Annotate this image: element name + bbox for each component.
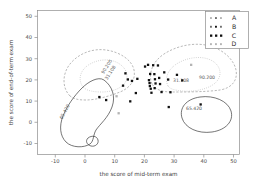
data-point — [131, 80, 133, 82]
data-point — [98, 96, 100, 98]
data-point — [154, 87, 156, 89]
legend-marker-b — [215, 26, 217, 28]
x-tickmarks — [55, 155, 233, 158]
contour-label: 65.420 — [186, 106, 202, 111]
x-axis-title: the score of mid-term exam — [99, 171, 177, 177]
y-tick-label: 30 — [25, 56, 32, 62]
data-point — [118, 112, 120, 114]
y-tick-label: 50 — [25, 13, 32, 19]
data-point — [105, 99, 107, 101]
legend-frame — [206, 12, 249, 49]
data-point — [167, 78, 169, 80]
data-point — [154, 78, 156, 80]
legend-label-c: C — [232, 32, 236, 39]
legend-label-b: B — [232, 23, 236, 30]
legend-marker-c — [215, 35, 217, 37]
y-tick-label: 10 — [25, 98, 32, 104]
y-tick-labels: -10 0 10 20 30 40 50 — [24, 13, 32, 146]
data-point — [176, 74, 178, 76]
data-point — [149, 85, 151, 87]
data-point — [168, 106, 170, 108]
chart-canvas: -10 0 10 20 30 40 50 -10 0 10 20 30 40 5… — [0, 0, 254, 185]
data-point — [159, 83, 161, 85]
x-tick-label: 0 — [83, 158, 86, 164]
contour-label: 90.200 — [199, 75, 215, 80]
data-point — [148, 82, 150, 84]
data-point — [135, 92, 137, 94]
data-point — [150, 92, 152, 94]
data-point — [157, 64, 159, 66]
data-point — [190, 64, 192, 66]
contour-labels: 90.200 31.108 65.420 31.108 90.200 65.42… — [59, 59, 215, 121]
contour-group-left — [61, 50, 135, 147]
data-point — [163, 71, 165, 73]
legend-marker-a — [210, 17, 212, 19]
legend-marker-d — [220, 43, 222, 45]
data-point — [136, 78, 138, 80]
scatter-plot-figure: -10 0 10 20 30 40 50 -10 0 10 20 30 40 5… — [0, 0, 254, 185]
x-tick-label: 10 — [111, 158, 118, 164]
data-point — [127, 78, 129, 80]
data-point — [115, 95, 117, 97]
x-tick-label: 40 — [200, 158, 207, 164]
y-axis-title: the score of end-of-term exam — [8, 40, 14, 125]
legend-marker-a — [220, 17, 222, 19]
contour-90200-left — [64, 50, 134, 100]
x-tick-label: 50 — [230, 158, 237, 164]
data-point — [158, 77, 160, 79]
data-point — [181, 79, 183, 81]
contour-label: 65.420 — [59, 103, 71, 120]
data-point — [154, 82, 156, 84]
data-point — [147, 64, 149, 66]
y-tick-label: 40 — [25, 34, 32, 40]
x-tick-label: -10 — [51, 158, 59, 164]
contour-31108-left — [80, 60, 127, 92]
legend-label-d: D — [232, 40, 237, 47]
legend[interactable]: A B C D — [206, 12, 249, 49]
legend-marker-d — [210, 43, 212, 45]
data-point — [124, 72, 126, 74]
data-point — [153, 73, 155, 75]
x-tick-label: 20 — [141, 158, 148, 164]
data-point — [122, 85, 124, 87]
data-point — [148, 79, 150, 81]
y-tick-label: 20 — [25, 77, 32, 83]
data-point — [200, 103, 202, 105]
legend-marker-c — [220, 35, 222, 37]
data-point — [152, 64, 154, 66]
legend-marker-d — [215, 43, 217, 45]
legend-marker-c — [210, 35, 212, 37]
y-tick-label: 0 — [29, 119, 32, 125]
x-tick-label: 30 — [171, 158, 178, 164]
contour-90200-right — [151, 44, 237, 92]
contour-65420-left — [61, 79, 114, 147]
x-tick-labels: -10 0 10 20 30 40 50 — [51, 158, 237, 164]
legend-marker-b — [210, 26, 212, 28]
contour-65420-right — [181, 97, 231, 133]
data-point — [129, 100, 131, 102]
data-point — [169, 91, 171, 93]
legend-marker-b — [220, 26, 222, 28]
contour-label: 31.108 — [173, 78, 189, 83]
data-point — [149, 73, 151, 75]
data-point — [144, 65, 146, 67]
data-point — [160, 91, 162, 93]
y-tickmarks — [35, 16, 38, 143]
legend-marker-a — [215, 17, 217, 19]
y-tick-label: -10 — [24, 140, 32, 146]
data-point — [150, 88, 152, 90]
